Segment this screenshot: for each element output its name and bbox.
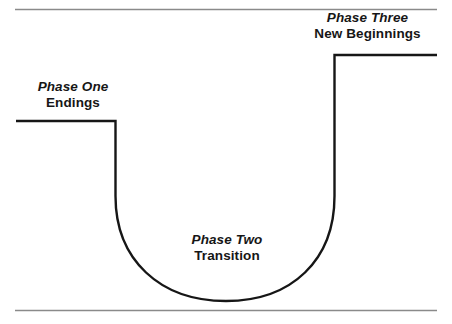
phase-three-title: Phase Three [297,10,438,26]
phase-three-label: Phase Three New Beginnings [297,10,438,42]
phase-one-title: Phase One [18,79,128,95]
phase-two-subtitle: Transition [171,248,283,264]
phase-two-label: Phase Two Transition [171,232,283,264]
phase-three-subtitle: New Beginnings [297,26,438,42]
phase-two-title: Phase Two [171,232,283,248]
transition-curve-graphic [0,0,452,324]
transition-phases-figure: Phase One Endings Phase Two Transition P… [0,0,452,324]
phase-one-subtitle: Endings [18,95,128,111]
phase-one-label: Phase One Endings [18,79,128,111]
